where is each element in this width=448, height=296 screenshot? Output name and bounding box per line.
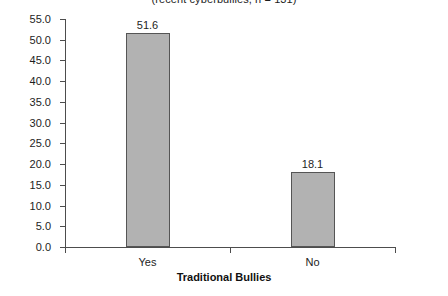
y-axis-tick-label: 40.0: [30, 75, 51, 87]
x-axis-category-label: No: [305, 256, 319, 268]
y-axis-tick: 5.0: [60, 226, 65, 227]
y-axis-tick-label: 45.0: [30, 54, 51, 66]
y-axis-tick: 45.0: [60, 60, 65, 61]
x-axis-tick: [65, 247, 66, 253]
y-axis-tick: 30.0: [60, 123, 65, 124]
y-axis-tick: 50.0: [60, 40, 65, 41]
y-axis-tick: 55.0: [60, 19, 65, 20]
y-axis-tick: 35.0: [60, 102, 65, 103]
bar-value-label: 51.6: [137, 19, 158, 31]
plot-area: 0.05.010.015.020.025.030.035.040.045.050…: [65, 19, 395, 247]
bar-chart: (recent cyberbullies, n = 131) 0.05.010.…: [0, 0, 448, 296]
y-axis-tick: 20.0: [60, 164, 65, 165]
y-axis-tick-label: 50.0: [30, 34, 51, 46]
y-axis-tick-label: 55.0: [30, 13, 51, 25]
y-axis-tick-label: 25.0: [30, 137, 51, 149]
chart-title: (recent cyberbullies, n = 131): [0, 0, 448, 5]
y-axis-tick-label: 15.0: [30, 179, 51, 191]
y-axis-tick-label: 30.0: [30, 117, 51, 129]
y-axis-tick-label: 5.0: [36, 220, 51, 232]
y-axis-tick: 25.0: [60, 143, 65, 144]
y-axis-tick: 10.0: [60, 206, 65, 207]
bar: 51.6: [126, 33, 170, 247]
bar-value-label: 18.1: [302, 158, 323, 170]
y-axis-tick: 15.0: [60, 185, 65, 186]
y-axis-tick-label: 35.0: [30, 96, 51, 108]
bar: 18.1: [291, 172, 335, 247]
x-axis-tick: [230, 247, 231, 253]
y-axis-tick-label: 10.0: [30, 200, 51, 212]
y-axis-tick: 40.0: [60, 81, 65, 82]
x-axis-title: Traditional Bullies: [0, 271, 448, 283]
y-axis-tick-label: 20.0: [30, 158, 51, 170]
x-axis-tick: [395, 247, 396, 253]
x-axis-category-label: Yes: [139, 256, 157, 268]
y-axis-tick-label: 0.0: [36, 241, 51, 253]
